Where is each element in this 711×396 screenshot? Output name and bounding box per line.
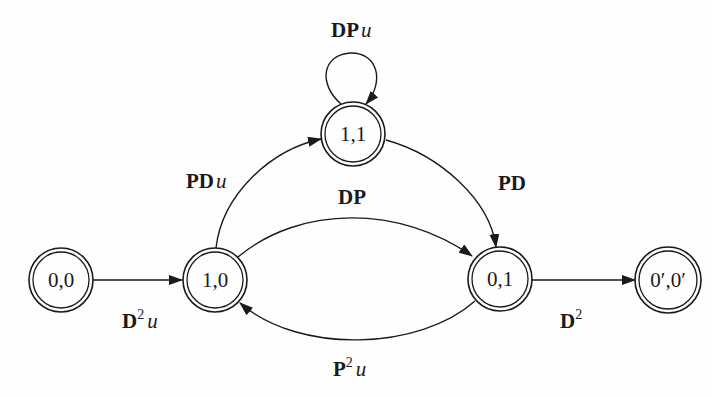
arrow-curve	[216, 139, 321, 248]
node-label: 1,1	[340, 122, 366, 146]
edge-label-d2u: D2u	[122, 307, 158, 333]
state-diagram-canvas: 0,0 1,0 1,1 0,1 0′,0′ D2u PDu	[0, 0, 711, 396]
edge-0-1-to-1-0	[240, 301, 475, 340]
state-node-0-0: 0,0	[29, 248, 93, 312]
edge-label-pd: PD	[498, 171, 526, 195]
node-label: 0,1	[487, 267, 513, 291]
arrow-curve	[240, 301, 475, 340]
arrow-curve	[238, 218, 472, 257]
state-node-1-1: 1,1	[321, 102, 385, 166]
node-label: 0,0	[48, 268, 74, 292]
node-label: 1,0	[202, 268, 228, 292]
edge-label-p2u: P2u	[333, 355, 366, 381]
state-node-0-1: 0,1	[468, 247, 532, 311]
node-label: 0′,0′	[650, 268, 685, 292]
edge-label-pdu: PDu	[186, 169, 227, 193]
edge-1-1-self-loop	[326, 53, 377, 104]
edge-label-dpu: DPu	[331, 18, 372, 42]
state-node-0p-0p: 0′,0′	[635, 247, 701, 313]
self-loop-curve	[326, 53, 377, 104]
edge-1-1-to-0-1	[386, 140, 496, 247]
edge-1-0-to-0-1	[238, 218, 472, 257]
edge-label-d2: D2	[560, 307, 582, 333]
edge-1-0-to-1-1	[216, 139, 321, 248]
state-node-1-0: 1,0	[183, 248, 247, 312]
state-diagram: 0,0 1,0 1,1 0,1 0′,0′ D2u PDu	[0, 0, 711, 396]
arrow-curve	[386, 140, 496, 247]
edge-label-dp: DP	[338, 185, 366, 209]
